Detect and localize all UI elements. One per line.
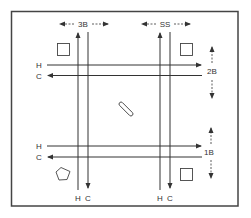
square-top-left [58, 44, 70, 56]
label-top-c: C [36, 72, 42, 81]
label-right-h: H [157, 194, 163, 203]
label-3b: 3B [78, 20, 88, 29]
label-ss-group: SS [142, 20, 190, 29]
label-left-h: H [75, 194, 81, 203]
label-right-c: C [167, 194, 173, 203]
square-top-right [181, 44, 193, 56]
diagonal-bar-center [118, 101, 134, 117]
label-3b-group: 3B [60, 20, 108, 29]
label-bottom-h: H [36, 142, 42, 151]
label-top-h: H [36, 61, 42, 70]
label-1b-group: 1B [204, 128, 214, 178]
outer-frame [12, 12, 239, 207]
diagram-canvas: 3B SS 2B 1B H C H C H C H C [0, 0, 251, 218]
pentagon-bottom-left [56, 168, 70, 181]
label-1b: 1B [204, 148, 214, 157]
label-left-c: C [85, 194, 91, 203]
label-2b-group: 2B [207, 47, 217, 98]
label-bottom-c: C [36, 153, 42, 162]
label-2b: 2B [207, 67, 217, 76]
label-ss: SS [160, 20, 171, 29]
square-bottom-right [181, 169, 193, 181]
